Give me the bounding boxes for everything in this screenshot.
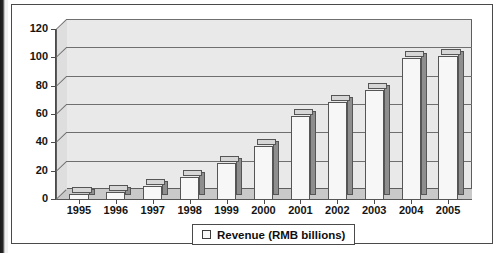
bar-front-face-2005 bbox=[438, 56, 457, 201]
bar-1995 bbox=[69, 187, 88, 200]
bar-top-face-1998 bbox=[183, 170, 202, 176]
bar-top-face-1999 bbox=[220, 156, 239, 162]
legend-swatch-icon bbox=[202, 230, 211, 239]
scan-edge-highlight bbox=[5, 0, 8, 253]
x-axis-tick-label-2001: 2001 bbox=[280, 204, 320, 216]
bar-1999 bbox=[217, 156, 236, 200]
bar-1996 bbox=[106, 185, 125, 201]
bar-front-face-1997 bbox=[143, 186, 162, 200]
y-axis-tick-label-100: 100 bbox=[14, 51, 48, 62]
bar-2003 bbox=[365, 83, 384, 201]
bar-front-face-2003 bbox=[365, 90, 384, 201]
bar-side-face-2002 bbox=[347, 97, 353, 195]
x-axis-tick-label-2000: 2000 bbox=[244, 204, 284, 216]
bar-top-face-1996 bbox=[109, 185, 128, 191]
y-axis-tick-120 bbox=[51, 29, 55, 30]
y-axis-tick-label-40: 40 bbox=[14, 136, 48, 147]
y-axis-tick-100 bbox=[51, 57, 55, 58]
y-axis-tick-0 bbox=[51, 199, 55, 200]
x-axis-tick-label-2004: 2004 bbox=[391, 204, 431, 216]
bar-top-face-2004 bbox=[405, 51, 424, 57]
bar-front-face-2001 bbox=[291, 116, 310, 200]
y-axis-tick-40 bbox=[51, 142, 55, 143]
x-axis-tick-label-1996: 1996 bbox=[96, 204, 136, 216]
bar-front-face-2000 bbox=[254, 146, 273, 200]
bar-2000 bbox=[254, 139, 273, 200]
y-axis-tick-label-120: 120 bbox=[14, 23, 48, 34]
bar-side-face-2004 bbox=[421, 53, 427, 195]
chart-frame: 020406080100120 199519961997199819992000… bbox=[11, 4, 493, 244]
bar-1997 bbox=[143, 179, 162, 200]
x-axis-tick-label-2003: 2003 bbox=[354, 204, 394, 216]
bar-side-face-2001 bbox=[310, 111, 316, 195]
bars-group bbox=[56, 19, 472, 200]
bar-side-face-1999 bbox=[236, 158, 242, 195]
bar-2005 bbox=[438, 49, 457, 201]
y-axis-tick-60 bbox=[51, 114, 55, 115]
bar-top-face-2005 bbox=[441, 49, 460, 55]
x-axis-tick-label-2002: 2002 bbox=[317, 204, 357, 216]
bar-front-face-1996 bbox=[106, 192, 125, 201]
bar-top-face-1995 bbox=[72, 187, 91, 193]
bar-top-face-2002 bbox=[331, 95, 350, 101]
y-axis-tick-label-80: 80 bbox=[14, 80, 48, 91]
y-axis-tick-label-0: 0 bbox=[14, 193, 48, 204]
x-axis-tick-label-1998: 1998 bbox=[170, 204, 210, 216]
bar-top-face-2003 bbox=[368, 83, 387, 89]
bar-side-face-2003 bbox=[384, 85, 390, 196]
bar-front-face-1999 bbox=[217, 163, 236, 200]
bar-top-face-1997 bbox=[146, 179, 165, 185]
bar-front-face-2002 bbox=[328, 102, 347, 200]
bar-front-face-2004 bbox=[402, 58, 421, 200]
x-axis-tick-label-1999: 1999 bbox=[207, 204, 247, 216]
chart-legend: Revenue (RMB billions) bbox=[192, 224, 355, 245]
bar-front-face-1998 bbox=[180, 177, 199, 200]
bar-side-face-2005 bbox=[458, 51, 464, 196]
bar-2004 bbox=[402, 51, 421, 200]
bar-top-face-2000 bbox=[257, 139, 276, 145]
legend-label: Revenue (RMB billions) bbox=[217, 229, 345, 241]
chart-screenshot: 020406080100120 199519961997199819992000… bbox=[0, 0, 499, 253]
x-axis-tick-label-1997: 1997 bbox=[133, 204, 173, 216]
bar-side-face-2000 bbox=[273, 141, 279, 195]
bar-1998 bbox=[180, 170, 199, 200]
x-axis-tick-label-1995: 1995 bbox=[59, 204, 99, 216]
bar-2002 bbox=[328, 95, 347, 200]
x-axis-tick-label-2005: 2005 bbox=[428, 204, 468, 216]
bar-top-face-2001 bbox=[294, 109, 313, 115]
y-axis-tick-label-20: 20 bbox=[14, 165, 48, 176]
y-axis-tick-label-60: 60 bbox=[14, 108, 48, 119]
bar-2001 bbox=[291, 109, 310, 200]
